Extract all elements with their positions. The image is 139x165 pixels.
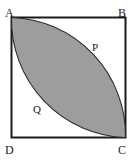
figure-canvas (0, 0, 139, 165)
geometry-figure: A B C D P Q (0, 0, 139, 165)
vertex-label-b: B (118, 7, 126, 19)
vertex-label-d: D (5, 144, 14, 156)
vertex-label-a: A (5, 7, 14, 19)
region-label-q: Q (33, 104, 41, 115)
region-label-p: P (92, 42, 98, 53)
vertex-label-c: C (118, 144, 126, 156)
